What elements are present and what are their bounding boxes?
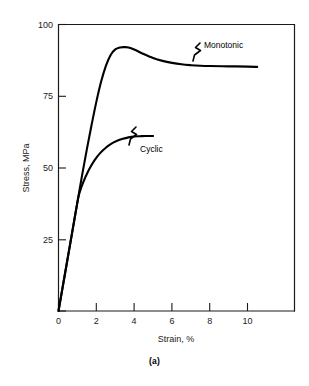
y-tick-label-75: 75	[43, 91, 53, 101]
y-tick-label-50: 50	[43, 163, 53, 173]
y-tick-label-25: 25	[43, 235, 53, 245]
annotation-monotonic: Monotonic	[204, 40, 244, 50]
x-tick-label-0: 0	[56, 316, 61, 326]
x-tick-label-8: 8	[207, 316, 212, 326]
x-tick-label-6: 6	[169, 316, 174, 326]
figure-panel: 100 75 50 25 0 2 4 6 8 10 Strain, % Stre…	[0, 0, 309, 386]
stress-strain-chart: 100 75 50 25 0 2 4 6 8 10 Strain, % Stre…	[0, 0, 309, 386]
y-tick-label-100: 100	[38, 20, 53, 30]
annotation-cyclic: Cyclic	[140, 144, 163, 154]
x-tick-label-2: 2	[94, 316, 99, 326]
x-tick-label-10: 10	[242, 316, 252, 326]
figure-caption: (a)	[0, 356, 309, 366]
x-axis-title: Strain, %	[158, 334, 195, 344]
x-tick-label-4: 4	[132, 316, 137, 326]
y-axis-title: Stress, MPa	[21, 143, 31, 192]
